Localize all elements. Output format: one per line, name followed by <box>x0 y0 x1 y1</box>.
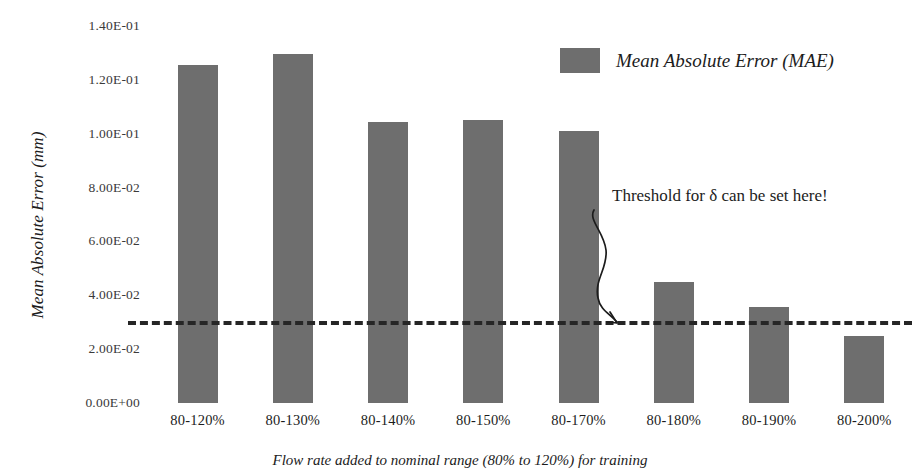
y-axis-tick-label: 0.00E+00 <box>48 395 140 411</box>
bar[interactable] <box>368 122 408 403</box>
y-axis-tick-label: 1.40E-01 <box>48 18 140 34</box>
y-axis-tick-label: 8.00E-02 <box>48 180 140 196</box>
figure-caption: Flow rate added to nominal range (80% to… <box>0 452 920 469</box>
y-axis-title: Mean Absolute Error (mm) <box>28 95 48 355</box>
threshold-line <box>128 321 912 325</box>
y-axis-tick-label: 2.00E-02 <box>48 341 140 357</box>
legend-label-mae: Mean Absolute Error (MAE) <box>616 50 834 72</box>
bar[interactable] <box>463 120 503 403</box>
bar[interactable] <box>273 54 313 403</box>
y-axis-tick-label: 1.00E-01 <box>48 126 140 142</box>
y-axis-tick-label: 1.20E-01 <box>48 72 140 88</box>
x-axis-tick-label: 80-150% <box>435 412 531 429</box>
x-axis-tick-label: 80-140% <box>340 412 436 429</box>
legend-swatch-mae <box>560 48 600 73</box>
x-axis-tick-label: 80-170% <box>531 412 627 429</box>
y-axis-tick-labels: 1.40E-011.20E-011.00E-018.00E-026.00E-02… <box>48 0 140 470</box>
threshold-annotation-text: Threshold for δ can be set here! <box>612 186 828 206</box>
x-axis-tick-label: 80-120% <box>150 412 246 429</box>
x-axis-tick-label: 80-180% <box>626 412 722 429</box>
x-axis-tick-label: 80-200% <box>816 412 912 429</box>
y-axis-tick-label: 6.00E-02 <box>48 233 140 249</box>
x-axis-tick-label: 80-130% <box>245 412 341 429</box>
legend: Mean Absolute Error (MAE) <box>560 48 834 73</box>
y-axis-tick-label: 4.00E-02 <box>48 287 140 303</box>
x-axis-tick-label: 80-190% <box>721 412 817 429</box>
bar[interactable] <box>178 65 218 403</box>
threshold-annotation-arrow-icon <box>586 206 666 336</box>
mae-bar-chart-figure: Mean Absolute Error (mm) 1.40E-011.20E-0… <box>0 0 920 470</box>
bar[interactable] <box>844 336 884 403</box>
